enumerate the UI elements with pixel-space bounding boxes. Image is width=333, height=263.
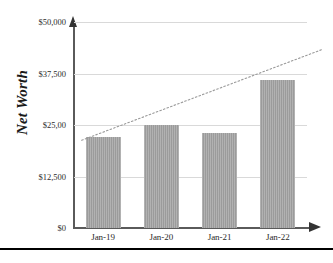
x-axis-tick-label: Jan-20 (149, 232, 173, 242)
net-worth-bar-chart: Net Worth $0$12,500$25,00$37,500$50,000 … (0, 0, 333, 263)
bar (144, 125, 179, 228)
y-axis-tick-label: $50,000 (14, 17, 66, 27)
plot-area (74, 22, 307, 228)
gridline (74, 22, 307, 23)
y-axis-tick-label: $0 (14, 223, 66, 233)
x-axis-tick-label: Jan-21 (208, 232, 232, 242)
bar (202, 133, 237, 228)
bar (86, 137, 121, 228)
bar (260, 80, 295, 228)
y-axis-tick-label: $12,500 (14, 172, 66, 182)
x-axis-tick-labels: Jan-19Jan-20Jan-21Jan-22 (74, 232, 307, 248)
bottom-divider (0, 248, 333, 250)
x-axis-tick-label: Jan-19 (91, 232, 115, 242)
gridline (74, 74, 307, 75)
gridline (74, 228, 307, 229)
x-axis-tick-label: Jan-22 (266, 232, 290, 242)
x-axis-arrow-icon (309, 222, 321, 232)
y-axis-tick-label: $25,00 (14, 120, 66, 130)
y-axis-tick-label: $37,500 (14, 69, 66, 79)
y-axis-tick-labels: $0$12,500$25,00$37,500$50,000 (14, 0, 66, 263)
